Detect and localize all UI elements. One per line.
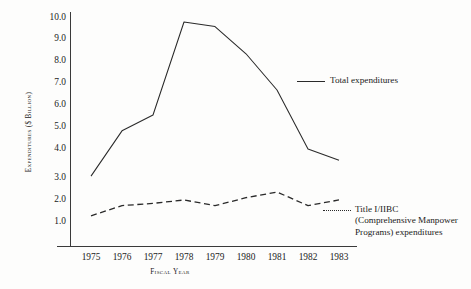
legend-swatch-title-i-iibc — [323, 210, 351, 211]
legend-label-line-2: (Comprehensive Manpower — [355, 215, 458, 226]
legend-label-total-expenditures: Total expenditures — [330, 75, 398, 86]
legend-label-title-i-iibc: Title I/IIBC (Comprehensive Manpower Pro… — [355, 204, 458, 238]
legend-swatch-total-expenditures — [297, 81, 325, 82]
series-line-total-expenditures — [91, 22, 339, 176]
series-line-title-i-iibc — [91, 192, 339, 216]
legend-label-line-1: Title I/IIBC — [355, 204, 458, 215]
plot-area — [0, 0, 471, 289]
chart-figure: Expenditures ($ Billion) 10.0 9.0 8.0 7.… — [0, 0, 471, 289]
legend-label-line-3: Programs) expenditures — [355, 227, 458, 238]
